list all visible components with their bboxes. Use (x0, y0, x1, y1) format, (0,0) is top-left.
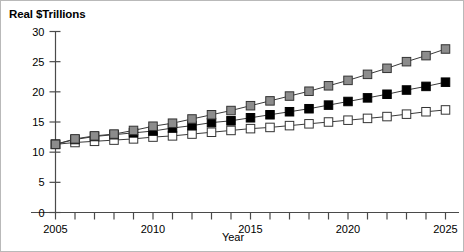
data-point-marker (402, 110, 411, 119)
series-low (51, 106, 450, 149)
data-point-marker (402, 57, 411, 66)
data-point-marker (266, 111, 275, 120)
data-point-marker (71, 135, 80, 144)
data-point-marker (441, 78, 450, 87)
data-point-marker (266, 97, 275, 106)
y-tick-label: 25 (32, 56, 44, 68)
data-point-marker (285, 92, 294, 101)
data-point-marker (402, 86, 411, 95)
data-point-marker (129, 126, 138, 135)
data-point-marker (207, 111, 216, 120)
y-tick-label: 30 (32, 26, 44, 38)
chart-figure: Real $Trillions 051015202530200520102015… (0, 0, 464, 252)
data-point-marker (324, 101, 333, 110)
data-point-marker (90, 132, 99, 141)
data-point-marker (422, 51, 431, 60)
data-point-marker (344, 76, 353, 85)
data-point-marker (305, 104, 314, 113)
chart-plot-area: 05101520253020052010201520202025 (1, 1, 464, 252)
data-point-marker (324, 82, 333, 91)
y-tick-label: 20 (32, 86, 44, 98)
data-point-marker (246, 101, 255, 110)
data-point-marker (246, 114, 255, 123)
data-point-marker (188, 130, 197, 139)
data-point-marker (149, 122, 158, 131)
data-point-marker (285, 121, 294, 129)
data-point-marker (266, 123, 275, 131)
data-point-marker (51, 140, 60, 149)
data-point-marker (383, 64, 392, 73)
data-point-marker (227, 117, 236, 126)
data-point-marker (324, 118, 333, 127)
data-point-marker (344, 97, 353, 106)
data-point-marker (363, 114, 372, 123)
data-point-marker (246, 124, 255, 133)
data-point-marker (441, 106, 450, 115)
y-tick-label: 10 (32, 146, 44, 158)
data-point-marker (207, 128, 216, 137)
data-point-marker (207, 118, 216, 127)
data-point-marker (383, 90, 392, 99)
data-point-marker (168, 119, 177, 128)
data-point-marker (227, 106, 236, 115)
data-point-marker (285, 107, 294, 116)
data-point-marker (383, 112, 392, 121)
data-point-marker (363, 70, 372, 79)
data-point-marker (188, 115, 197, 124)
data-point-marker (441, 45, 450, 54)
data-point-marker (305, 87, 314, 96)
data-point-marker (110, 130, 119, 139)
data-point-marker (422, 82, 431, 91)
data-point-marker (422, 107, 431, 116)
y-tick-label: 15 (32, 116, 44, 128)
y-tick-label: 0 (38, 207, 44, 219)
x-axis-title: Year (1, 231, 464, 243)
data-point-marker (227, 126, 236, 135)
data-point-marker (168, 132, 177, 141)
data-point-marker (305, 120, 314, 129)
data-point-marker (344, 116, 353, 125)
y-tick-label: 5 (38, 176, 44, 188)
data-point-marker (363, 94, 372, 103)
